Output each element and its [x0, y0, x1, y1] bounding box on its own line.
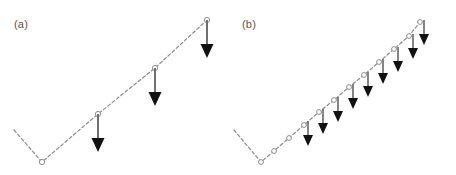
- load-arrow-head: [378, 73, 388, 84]
- beam-node: [362, 73, 367, 78]
- load-arrow-head: [92, 138, 105, 152]
- beam-node: [302, 123, 307, 128]
- figure-root: (a) (b): [0, 0, 456, 175]
- beam-node: [287, 136, 292, 141]
- beam-node: [259, 160, 264, 165]
- beam-node: [392, 47, 397, 52]
- beam-node: [407, 34, 412, 39]
- load-arrow-head: [333, 111, 343, 122]
- load-arrow-head: [303, 135, 313, 146]
- beam-node: [332, 98, 337, 103]
- load-arrow-head: [149, 92, 162, 106]
- beam-node: [317, 110, 322, 115]
- panel-b-diagram: [228, 0, 456, 175]
- load-arrow-head: [318, 123, 328, 134]
- load-arrow-head: [393, 61, 403, 72]
- beam-node: [272, 149, 277, 154]
- beam-node: [418, 20, 423, 25]
- beam-node: [377, 60, 382, 65]
- panel-a-diagram: [0, 0, 228, 175]
- beam-node: [347, 85, 352, 90]
- beam-node: [39, 159, 44, 164]
- load-arrow-head: [348, 98, 358, 109]
- load-arrow-head: [408, 48, 418, 59]
- panel-a: (a): [0, 0, 228, 175]
- panel-b: (b): [228, 0, 456, 175]
- load-arrow-head: [363, 86, 373, 97]
- load-arrow-head: [201, 44, 214, 58]
- load-arrow-head: [419, 34, 429, 45]
- beam-polyline-a: [14, 20, 207, 162]
- beam-polyline-b: [234, 22, 420, 162]
